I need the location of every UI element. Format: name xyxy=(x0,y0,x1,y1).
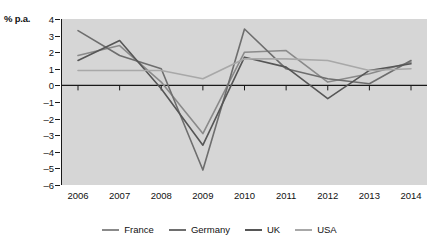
legend-item-uk[interactable]: UK xyxy=(245,224,280,235)
plot-area xyxy=(62,19,427,185)
x-axis-tick-label: 2008 xyxy=(151,190,172,201)
y-axis-tick-mark xyxy=(55,36,60,37)
plot-series-svg xyxy=(62,19,427,185)
legend-item-label: USA xyxy=(317,224,337,235)
y-axis-tick-mark xyxy=(55,69,60,70)
y-axis-tick-label: –5 xyxy=(28,163,54,174)
x-axis-tick-label: 2010 xyxy=(234,190,255,201)
y-axis-tick-mark xyxy=(55,152,60,153)
legend-line-swatch xyxy=(295,229,312,231)
legend-item-label: UK xyxy=(267,224,280,235)
legend-item-france[interactable]: France xyxy=(102,224,154,235)
x-axis-tick-label: 2014 xyxy=(400,190,421,201)
y-axis-tick-mark xyxy=(55,52,60,53)
y-axis-tick-label: 2 xyxy=(28,47,54,58)
y-axis-tick-mark xyxy=(55,19,60,20)
y-axis-tick-label: –6 xyxy=(28,180,54,191)
x-axis-tick-label: 2011 xyxy=(276,190,296,201)
x-axis-tick-label: 2009 xyxy=(192,190,213,201)
x-axis-tick-label: 2006 xyxy=(67,190,88,201)
y-axis-tick-mark xyxy=(55,185,60,186)
y-axis-tick-label: 4 xyxy=(28,14,54,25)
legend-line-swatch xyxy=(245,229,262,231)
legend-line-swatch xyxy=(169,229,186,231)
legend-item-germany[interactable]: Germany xyxy=(169,224,230,235)
legend-item-label: Germany xyxy=(191,224,230,235)
y-axis-tick-label: –4 xyxy=(28,146,54,157)
legend-line-swatch xyxy=(102,229,119,231)
line-chart: % p.a. 43210–1–2–3–4–5–6 200620072008200… xyxy=(0,0,439,248)
chart-legend: FranceGermanyUKUSA xyxy=(0,224,439,235)
y-axis-tick-label: 1 xyxy=(28,63,54,74)
y-axis-tick-labels: 43210–1–2–3–4–5–6 xyxy=(22,19,54,185)
y-axis-tick-mark xyxy=(55,135,60,136)
y-axis-tick-mark xyxy=(55,168,60,169)
y-axis-tick-mark xyxy=(55,85,60,86)
x-axis-tick-label: 2007 xyxy=(109,190,130,201)
y-axis-tick-mark xyxy=(55,119,60,120)
y-axis-tick-label: –1 xyxy=(28,97,54,108)
y-axis-tick-label: –3 xyxy=(28,130,54,141)
y-axis-tick-label: 0 xyxy=(28,80,54,91)
x-axis-tick-label: 2013 xyxy=(359,190,380,201)
y-axis-tick-label: –2 xyxy=(28,113,54,124)
series-line-uk xyxy=(78,41,411,146)
y-axis-tick-mark xyxy=(55,102,60,103)
x-axis-tick-label: 2012 xyxy=(317,190,338,201)
legend-item-label: France xyxy=(124,224,154,235)
y-axis-tick-label: 3 xyxy=(28,30,54,41)
legend-item-usa[interactable]: USA xyxy=(295,224,337,235)
